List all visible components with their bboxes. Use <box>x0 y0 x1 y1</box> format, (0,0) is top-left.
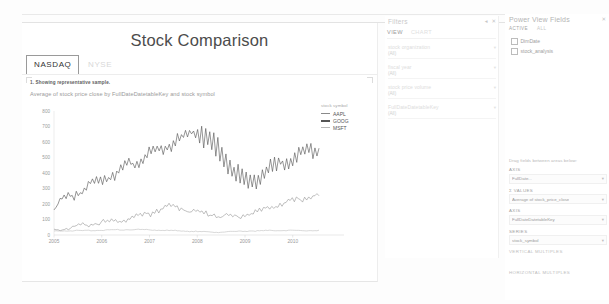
fields-title: Power View Fields <box>509 16 570 23</box>
filter-value: (All) <box>388 71 496 76</box>
filter-chevron-icon[interactable]: ▾ <box>494 85 496 90</box>
filter-separator <box>388 78 496 79</box>
filter-separator <box>388 118 496 119</box>
svg-text:2006: 2006 <box>96 239 107 244</box>
filters-header: Filters ◂ ✕ <box>388 16 496 27</box>
svg-text:300: 300 <box>42 186 50 191</box>
well-title-series: SERIES <box>509 229 607 234</box>
fields-tab-all[interactable]: ALL <box>537 26 546 31</box>
svg-text:2005: 2005 <box>49 239 60 244</box>
report-canvas: Stock Comparison NASDAQ NYSE 1. Showing … <box>22 23 378 282</box>
window-chrome-line-top <box>22 14 587 15</box>
power-view-fields-pane: Power View Fields ✕ ACTIVE ALL DimDate s… <box>505 14 609 300</box>
chart-sample-note: 1. Showing representative sample. <box>30 80 110 85</box>
filter-value: (All) <box>388 91 496 96</box>
fields-tab-active[interactable]: ACTIVE <box>509 26 528 31</box>
svg-text:100: 100 <box>42 217 50 222</box>
filters-divider <box>387 38 496 39</box>
filter-name: FullDateDatetableKey <box>388 104 439 110</box>
power-view-report-window: Stock Comparison NASDAQ NYSE 1. Showing … <box>0 0 609 304</box>
svg-text:800: 800 <box>42 109 50 114</box>
svg-text:0: 0 <box>47 233 50 238</box>
field-table-stock-analysis[interactable]: stock_analysis <box>511 48 553 55</box>
field-table-label: DimDate <box>521 38 540 44</box>
well-pill-label: stock_symbol <box>512 238 539 243</box>
chart-subtitle: Average of stock price close by FullDate… <box>30 91 215 97</box>
well-title-horizontal-multiples[interactable]: HORIZONTAL MULTIPLES <box>509 270 607 275</box>
well-pill-label: FullDateDatetableKey <box>512 217 555 222</box>
well-title-axis: AXIS <box>509 167 607 172</box>
filters-tab-view[interactable]: VIEW <box>387 29 403 35</box>
svg-text:2010: 2010 <box>287 239 298 244</box>
tabstrip-divider <box>22 74 377 75</box>
chart-frame-corner-right <box>367 77 373 83</box>
svg-text:2007: 2007 <box>144 239 155 244</box>
checkbox-icon[interactable] <box>511 38 518 45</box>
well-title-values: Σ VALUES <box>509 188 607 193</box>
filter-item-fulldate[interactable]: FullDateDatetableKey ▾ (All) <box>388 104 496 119</box>
checkbox-icon[interactable] <box>511 48 518 55</box>
field-table-label: stock_analysis <box>521 48 554 54</box>
filter-item-stock-organization[interactable]: stock organization ▾ (All) <box>388 44 496 59</box>
svg-text:700: 700 <box>42 124 50 129</box>
chart-plot-area[interactable]: 0100200300400500600700800200520062007200… <box>24 107 375 257</box>
filters-header-icons: ◂ ✕ <box>485 19 496 25</box>
filter-name: stock price volume <box>388 84 431 90</box>
well-title-axis-2: AXIS <box>509 208 607 213</box>
well-pill-values[interactable]: Average of stock_price_close ▾ <box>509 194 607 204</box>
well-pill-label: Average of stock_price_close <box>512 197 569 202</box>
filters-title: Filters <box>388 18 408 25</box>
filter-chevron-icon[interactable]: ▾ <box>494 45 496 50</box>
filters-tab-chart[interactable]: CHART <box>411 29 432 35</box>
close-icon[interactable]: ✕ <box>601 17 606 23</box>
filter-separator <box>388 98 496 99</box>
tab-nyse[interactable]: NYSE <box>80 55 120 75</box>
filter-value: (All) <box>388 111 496 116</box>
well-pill-axis-top[interactable]: FullDate... ▾ <box>509 174 607 184</box>
chevron-down-icon[interactable]: ▾ <box>602 176 604 181</box>
well-title-vertical-multiples[interactable]: VERTICAL MULTIPLES <box>509 249 607 254</box>
line-chart[interactable]: 1. Showing representative sample. Averag… <box>24 77 375 277</box>
page-title: Stock Comparison <box>22 31 377 50</box>
filter-item-fiscal-year[interactable]: fiscal year ▾ (All) <box>388 64 496 79</box>
close-icon[interactable]: ✕ <box>491 19 496 25</box>
fields-header: Power View Fields ✕ <box>509 14 606 25</box>
svg-text:500: 500 <box>42 155 50 160</box>
filter-name: stock organization <box>388 44 430 50</box>
filter-value: (All) <box>388 51 496 56</box>
chevron-down-icon[interactable]: ▾ <box>602 217 604 222</box>
collapse-icon[interactable]: ◂ <box>485 19 488 25</box>
svg-text:2008: 2008 <box>192 239 203 244</box>
field-table-dimdate[interactable]: DimDate <box>511 38 540 45</box>
filter-name: fiscal year <box>388 64 412 70</box>
fields-tabs: ACTIVE ALL <box>509 26 546 31</box>
filter-chevron-icon[interactable]: ▾ <box>494 105 496 110</box>
well-pill-label: FullDate... <box>512 176 532 181</box>
svg-text:600: 600 <box>42 140 50 145</box>
well-pill-axis[interactable]: FullDateDatetableKey ▾ <box>509 215 607 225</box>
svg-text:200: 200 <box>42 202 50 207</box>
tab-nasdaq[interactable]: NASDAQ <box>26 55 79 75</box>
filter-separator <box>388 58 496 59</box>
svg-text:2009: 2009 <box>240 239 251 244</box>
chevron-down-icon[interactable]: ▾ <box>602 197 604 202</box>
filters-tabs: VIEW CHART <box>387 29 432 35</box>
filter-chevron-icon[interactable]: ▾ <box>494 65 496 70</box>
well-pill-series[interactable]: stock_symbol ▾ <box>509 235 607 245</box>
filter-item-stock-price-volume[interactable]: stock price volume ▾ (All) <box>388 84 496 99</box>
svg-text:400: 400 <box>42 171 50 176</box>
chart-svg: 0100200300400500600700800200520062007200… <box>24 107 375 257</box>
chevron-down-icon[interactable]: ▾ <box>602 238 604 243</box>
field-wells: Drag fields between areas below: AXIS Fu… <box>509 158 607 275</box>
wells-hint: Drag fields between areas below: <box>509 158 607 163</box>
filters-pane: Filters ◂ ✕ VIEW CHART stock organizatio… <box>385 16 499 258</box>
